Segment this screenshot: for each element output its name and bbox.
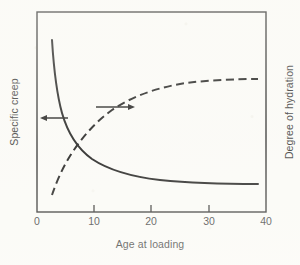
xtick-label-30: 30 (194, 215, 224, 227)
series-degree-of-hydration (52, 79, 258, 195)
axis-frame (37, 12, 266, 212)
xtick-label-10: 10 (79, 215, 109, 227)
x-axis-title: Age at loading (0, 238, 300, 250)
right-arrow-annotation (96, 104, 135, 110)
right-arrow-head-icon (128, 104, 135, 110)
xtick-label-40: 40 (251, 215, 281, 227)
xtick-label-20: 20 (136, 215, 166, 227)
left-arrow-head-icon (40, 115, 47, 121)
xtick-label-0: 0 (22, 215, 52, 227)
series-specific-creep (52, 40, 258, 184)
figure-container: 0 10 20 30 40 Age at loading Specific cr… (0, 0, 300, 265)
x-axis-ticks (94, 205, 209, 212)
plot-frame (37, 12, 266, 212)
y-axis-right-title: Degree of hydration (283, 57, 295, 167)
y-axis-left-title: Specific creep (8, 62, 20, 162)
